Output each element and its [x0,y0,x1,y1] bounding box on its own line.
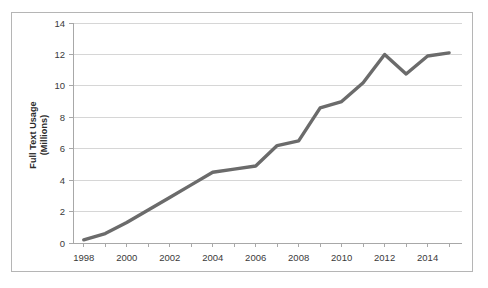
y-tick-label: 4 [60,175,65,186]
x-tick-marks-group [84,243,449,247]
x-tick-label: 2002 [159,252,180,263]
y-tick-label: 14 [54,18,65,29]
y-tick-label: 6 [60,143,65,154]
y-tick-labels-group: 02468101214 [54,18,73,249]
gridlines-group [73,23,462,243]
x-tick-label: 1998 [73,252,94,263]
axis-lines-group [73,23,462,243]
x-tick-label: 2008 [288,252,309,263]
x-tick-label: 2014 [417,252,438,263]
y-tick-label: 0 [60,238,65,249]
line-chart-plot: 02468101214 1998200020022004200620082010… [0,0,488,288]
x-tick-label: 2006 [245,252,266,263]
y-tick-label: 12 [54,49,65,60]
x-tick-label: 2004 [202,252,223,263]
y-tick-label: 10 [54,80,65,91]
x-tick-labels-group: 199820002002200420062008201020122014 [73,252,438,263]
x-tick-label: 2012 [374,252,395,263]
x-tick-label: 2010 [331,252,352,263]
y-tick-label: 8 [60,112,65,123]
x-tick-label: 2000 [116,252,137,263]
chart-figure: Full Text Usage (Millions) 02468101214 1… [0,0,488,288]
y-tick-label: 2 [60,206,65,217]
